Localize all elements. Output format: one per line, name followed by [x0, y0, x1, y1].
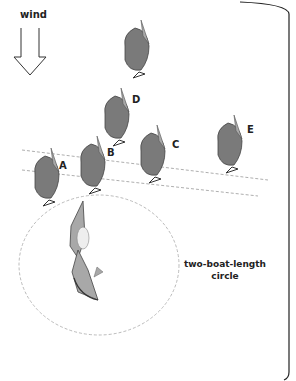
- boat-e-label: E: [247, 124, 254, 135]
- tacking-boat: [70, 201, 103, 300]
- boat-a-label: A: [59, 160, 67, 171]
- diagram-canvas: wind D A B C E two-boat-length circle: [0, 0, 296, 381]
- boat-b-label: B: [107, 147, 115, 158]
- frame-border: [240, 2, 289, 380]
- circle-label-line1: two-boat-length: [184, 259, 266, 269]
- boat-c: [141, 125, 165, 183]
- boat-c-label: C: [172, 139, 179, 150]
- boat-d-label: D: [132, 94, 140, 105]
- boat-top: [125, 20, 149, 78]
- boat-d: [105, 88, 129, 146]
- wind-label: wind: [20, 9, 47, 20]
- boat-b: [81, 136, 105, 194]
- wind-arrow-icon: [14, 28, 46, 75]
- circle-label-line2: circle: [211, 271, 238, 281]
- two-boat-length-circle: [19, 195, 179, 335]
- boat-e: [218, 115, 242, 173]
- boat-a: [35, 148, 59, 206]
